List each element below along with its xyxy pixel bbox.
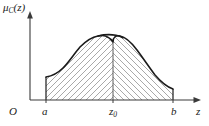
tick-label-z0: z0 [109, 106, 117, 119]
membership-function-plot [0, 0, 209, 126]
tick-label-a: a [42, 106, 48, 117]
y-axis-arrow-icon [27, 11, 33, 19]
x-axis-label: z [196, 106, 200, 117]
origin-label: O [9, 106, 17, 117]
membership-curve [46, 36, 173, 89]
tick-label-b: b [171, 106, 177, 117]
y-axis-label: μC(z) [3, 2, 25, 14]
figure-container: μC(z) O a z0 b z [0, 0, 209, 126]
tick-label-z0-subscript: 0 [113, 110, 117, 119]
y-axis-label-arg: (z) [14, 1, 26, 13]
x-axis-arrow-icon [194, 97, 202, 103]
